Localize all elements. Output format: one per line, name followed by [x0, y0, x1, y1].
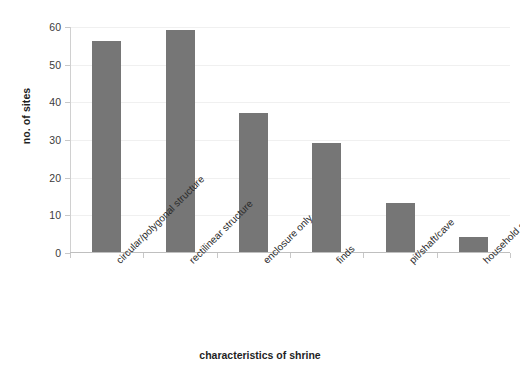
x-axis-category-label: pit/shaft/cave [407, 258, 415, 266]
y-axis-tick-mark [65, 140, 70, 141]
gridline [71, 178, 510, 179]
y-axis-tick-label: 40 [49, 96, 61, 108]
y-axis-tick-label: 20 [49, 172, 61, 184]
y-axis-tick-label: 10 [49, 209, 61, 221]
x-axis-category-label: circular/polygonal structure [114, 258, 122, 266]
x-axis-category-label: enclosure only [261, 258, 269, 266]
bar [459, 237, 488, 252]
y-axis-title: no. of sites [20, 70, 32, 162]
bar [312, 143, 341, 252]
y-axis-tick-mark [65, 178, 70, 179]
x-axis-tick-mark [217, 253, 218, 258]
x-axis-title: characteristics of shrine [0, 349, 520, 361]
gridline [71, 65, 510, 66]
x-axis-tick-mark [70, 253, 71, 258]
gridline [71, 215, 510, 216]
y-axis-tick-mark [65, 215, 70, 216]
bar [92, 41, 121, 252]
x-axis-tick-mark [143, 253, 144, 258]
y-axis-tick-label: 60 [49, 21, 61, 33]
x-axis-category-label: household shrine [481, 258, 489, 266]
x-axis-tick-mark [510, 253, 511, 258]
bar [166, 30, 195, 252]
y-axis-tick-label: 50 [49, 59, 61, 71]
bar [239, 113, 268, 252]
y-axis-tick-mark [65, 65, 70, 66]
x-axis-tick-mark [437, 253, 438, 258]
bar [386, 203, 415, 252]
y-axis-tick-mark [65, 102, 70, 103]
gridline [71, 102, 510, 103]
gridline [71, 140, 510, 141]
x-axis-category-label: finds [334, 258, 342, 266]
y-axis-tick-mark [65, 27, 70, 28]
y-axis-tick-label: 30 [49, 134, 61, 146]
x-axis-category-label: rectilinear structure [187, 258, 195, 266]
x-axis-tick-mark [363, 253, 364, 258]
gridline [71, 27, 510, 28]
y-axis-tick-label: 0 [55, 247, 61, 259]
x-axis-tick-mark [290, 253, 291, 258]
bar-chart: no. of sites 0102030405060 characteristi… [0, 0, 520, 379]
